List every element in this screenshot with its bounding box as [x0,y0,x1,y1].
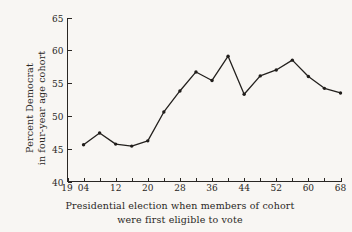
data-point-1932 [194,70,197,73]
x-tick-label-1912: 12 [110,183,121,193]
y-axis-tick-labels: 404550556065 [52,14,64,188]
x-axis-caption-line2: were first eligible to vote [117,214,243,225]
data-point-1928 [178,89,181,92]
y-tick-label-60: 60 [52,46,64,56]
line-chart: Percent Democrat in four-year age cohort… [0,0,352,232]
data-point-1940 [226,55,229,58]
y-axis-title-line2: in four-year age cohort [36,51,47,166]
x-tick-label-1944: 44 [238,183,250,193]
data-point-1952 [275,68,278,71]
data-point-1956 [291,58,294,61]
x-tick-label-1904: 04 [78,183,90,193]
data-point-1944 [242,93,245,96]
x-axis-caption-line1: Presidential election when members of co… [65,200,294,211]
data-point-1912 [114,142,117,145]
data-point-1936 [210,79,213,82]
x-axis-ticks [69,178,342,182]
x-axis-tick-labels: 041220283644526068 [78,183,347,193]
x-axis-origin-prefix: 19 [61,183,73,193]
x-tick-label-1936: 36 [206,183,218,193]
data-point-markers [82,55,342,148]
data-point-1964 [323,87,326,90]
data-point-1920 [146,139,149,142]
x-tick-label-1968: 68 [335,183,347,193]
x-tick-label-1928: 28 [174,183,186,193]
x-tick-label-1920: 20 [142,183,154,193]
y-tick-label-55: 55 [52,79,64,89]
data-point-1948 [259,74,262,77]
data-point-1960 [307,75,310,78]
x-tick-label-1960: 60 [303,183,315,193]
y-tick-label-45: 45 [52,145,64,155]
y-tick-label-65: 65 [52,14,64,24]
y-axis-title-line1: Percent Democrat [24,63,35,153]
data-point-1908 [98,131,101,134]
y-axis-ticks [68,19,72,183]
data-series-line [84,56,341,146]
data-point-1968 [339,91,342,94]
data-point-1924 [162,110,165,113]
chart-figure: Percent Democrat in four-year age cohort… [0,0,352,232]
x-tick-label-1952: 52 [271,183,282,193]
data-point-1904 [82,143,85,146]
data-point-1916 [130,144,133,147]
y-tick-label-50: 50 [52,112,64,122]
